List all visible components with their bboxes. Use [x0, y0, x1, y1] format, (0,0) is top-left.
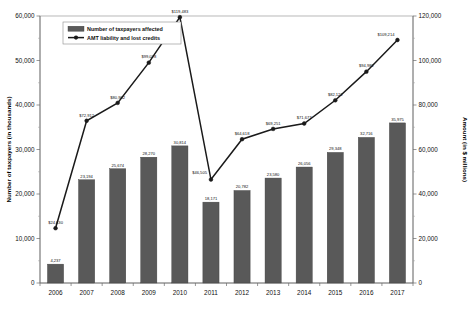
- right-axis-tick-label: 120,000: [419, 12, 442, 19]
- line-data-point: [333, 98, 337, 102]
- left-axis-tick-label: 40,000: [15, 101, 35, 108]
- bar: [389, 123, 405, 283]
- right-axis-title: Amount (in $ millions): [462, 117, 469, 182]
- line-value-label: $82,122: [328, 92, 344, 97]
- left-axis-tick-label: 0: [31, 279, 35, 286]
- bar: [141, 157, 157, 283]
- line-value-label: $72,912: [79, 113, 95, 118]
- bar-value-label: 20,782: [236, 184, 249, 189]
- line-data-point: [85, 119, 89, 123]
- bar-value-label: 26,056: [298, 161, 311, 166]
- x-axis-category-label: 2008: [111, 289, 126, 296]
- bar-value-label: 23,580: [267, 172, 280, 177]
- legend-marker-line: [74, 36, 78, 40]
- bar: [296, 167, 312, 283]
- bar-value-label: 18,171: [205, 196, 218, 201]
- bar-value-label: 25,674: [111, 163, 124, 168]
- line-data-point: [116, 101, 120, 105]
- bar-value-label: 29,348: [329, 146, 342, 151]
- line-data-point: [240, 137, 244, 141]
- x-axis-category-label: 2010: [173, 289, 188, 296]
- right-axis-tick-label: 80,000: [419, 101, 439, 108]
- line-data-point: [271, 127, 275, 131]
- line-value-label: $71,677: [297, 115, 313, 120]
- line-value-label: $119,483: [171, 9, 188, 14]
- bar-value-label: 4,237: [50, 258, 61, 263]
- bar: [265, 178, 281, 283]
- line-value-label: $24,630: [48, 220, 64, 225]
- chart-container: 010,00020,00030,00040,00050,00060,000Num…: [0, 0, 474, 309]
- x-axis-category-label: 2011: [204, 289, 218, 296]
- right-axis-tick-label: 60,000: [419, 146, 439, 153]
- bar-value-label: 32,716: [360, 131, 373, 136]
- combo-bar-line-chart: 010,00020,00030,00040,00050,00060,000Num…: [0, 0, 474, 309]
- left-axis-title: Number of taxpayers (in thousands): [5, 97, 12, 203]
- x-axis-category-label: 2012: [235, 289, 250, 296]
- bar-value-label: 28,270: [143, 151, 156, 156]
- bar: [172, 146, 188, 283]
- legend-swatch-bars: [68, 26, 84, 31]
- bar-value-label: 35,975: [391, 117, 404, 122]
- right-axis-tick-label: 20,000: [419, 235, 439, 242]
- line-data-point: [302, 122, 306, 126]
- right-axis-tick-label: 40,000: [419, 190, 439, 197]
- line-data-point: [54, 226, 58, 230]
- left-axis-tick-label: 20,000: [15, 190, 35, 197]
- bar: [47, 264, 63, 283]
- line-value-label: $94,982: [359, 63, 375, 68]
- line-value-label: $46,505: [192, 170, 208, 175]
- bar: [234, 191, 250, 283]
- plot-area-border: [40, 16, 413, 283]
- line-value-label: $109,214: [377, 32, 395, 37]
- bar: [79, 180, 95, 283]
- left-axis-tick-label: 60,000: [15, 12, 35, 19]
- legend-label-bars: Number of taxpayers affected: [87, 26, 163, 32]
- x-axis-category-label: 2015: [328, 289, 343, 296]
- line-data-point: [364, 70, 368, 74]
- bar: [110, 169, 126, 283]
- bar-value-label: 30,814: [174, 140, 187, 145]
- x-axis-category-label: 2013: [266, 289, 281, 296]
- x-axis-category-label: 2007: [80, 289, 95, 296]
- line-value-label: $99,028: [141, 54, 157, 59]
- left-axis-tick-label: 10,000: [15, 235, 35, 242]
- left-axis-tick-label: 30,000: [15, 146, 35, 153]
- line-data-point: [147, 61, 151, 65]
- x-axis-category-label: 2009: [142, 289, 157, 296]
- x-axis-category-label: 2014: [297, 289, 312, 296]
- x-axis-category-label: 2006: [48, 289, 63, 296]
- bar-value-label: 23,194: [80, 174, 93, 179]
- line-data-point: [209, 178, 213, 182]
- line-data-point: [178, 15, 182, 19]
- line-value-label: $64,618: [235, 131, 251, 136]
- legend-label-line: AMT liability and lost credits: [87, 35, 160, 41]
- bar: [203, 202, 219, 283]
- x-axis-category-label: 2016: [359, 289, 374, 296]
- left-axis-tick-label: 50,000: [15, 57, 35, 64]
- right-axis-tick-label: 0: [419, 279, 423, 286]
- line-series-path: [56, 17, 398, 228]
- bar: [327, 152, 343, 283]
- x-axis-category-label: 2017: [390, 289, 405, 296]
- bar: [358, 137, 374, 283]
- right-axis-tick-label: 100,000: [419, 57, 442, 64]
- line-value-label: $80,962: [110, 95, 126, 100]
- line-value-label: $69,251: [266, 121, 282, 126]
- line-data-point: [396, 38, 400, 42]
